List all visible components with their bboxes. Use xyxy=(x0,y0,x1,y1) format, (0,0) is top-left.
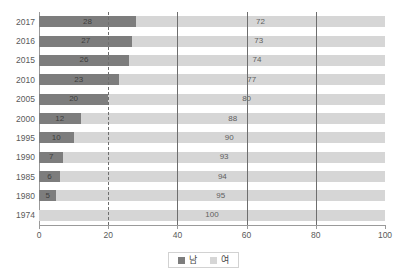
x-tick-label: 60 xyxy=(242,231,251,240)
y-tick-label: 2010 xyxy=(0,76,35,85)
bar-value-label: 72 xyxy=(136,18,385,26)
bar-value-label: 73 xyxy=(132,37,385,45)
bar-value-label: 5 xyxy=(39,192,56,200)
gridline-60 xyxy=(247,12,248,225)
bar-row: 595 xyxy=(39,190,385,201)
bar-segment-male: 28 xyxy=(39,16,136,27)
legend-label: 남 xyxy=(189,256,197,265)
bar-value-label: 93 xyxy=(63,153,385,161)
bar-value-label: 23 xyxy=(39,76,119,84)
x-tick xyxy=(177,225,178,229)
x-tick xyxy=(39,225,40,229)
gridline-20 xyxy=(108,12,109,225)
y-tick-label: 2015 xyxy=(0,56,35,65)
legend-item-female[interactable]: 여 xyxy=(210,256,229,265)
bar-row: 2377 xyxy=(39,74,385,85)
bar-segment-male: 10 xyxy=(39,132,74,143)
bar-segment-female: 93 xyxy=(63,152,385,163)
chart-legend: 남여 xyxy=(168,252,239,268)
y-tick-label: 2000 xyxy=(0,115,35,124)
y-tick-label: 1980 xyxy=(0,192,35,201)
bar-value-label: 12 xyxy=(39,115,81,123)
x-tick-label: 80 xyxy=(311,231,320,240)
bar-segment-male: 26 xyxy=(39,55,129,66)
bar-value-label: 26 xyxy=(39,56,129,64)
bar-segment-male: 27 xyxy=(39,36,132,47)
bar-row: 2773 xyxy=(39,36,385,47)
plot-rows: 2872277326742377208012881090793694595100 xyxy=(39,12,385,225)
bar-segment-male: 12 xyxy=(39,113,81,124)
bar-row: 793 xyxy=(39,152,385,163)
bar-value-label: 6 xyxy=(39,173,60,181)
bar-value-label: 28 xyxy=(39,18,136,26)
bar-value-label: 88 xyxy=(81,115,385,123)
x-tick xyxy=(247,225,248,229)
x-tick-label: 100 xyxy=(378,231,392,240)
bar-value-label: 10 xyxy=(39,134,74,142)
bar-value-label: 20 xyxy=(39,95,108,103)
bar-value-label: 77 xyxy=(119,76,385,84)
bar-segment-female: 72 xyxy=(136,16,385,27)
bar-value-label: 95 xyxy=(56,192,385,200)
legend-swatch-icon xyxy=(210,257,217,264)
x-tick xyxy=(385,225,386,229)
x-tick xyxy=(108,225,109,229)
stacked-bar-chart: 2017201620152010200520001995199019851980… xyxy=(0,0,404,280)
bar-segment-male: 5 xyxy=(39,190,56,201)
x-axis-line xyxy=(39,225,386,226)
bar-row: 1288 xyxy=(39,113,385,124)
y-tick-label: 1990 xyxy=(0,153,35,162)
bar-value-label: 90 xyxy=(74,134,385,142)
y-tick-label: 1995 xyxy=(0,134,35,143)
bar-value-label: 27 xyxy=(39,37,132,45)
y-tick-label: 2016 xyxy=(0,37,35,46)
bar-row: 1090 xyxy=(39,132,385,143)
legend-label: 여 xyxy=(221,256,229,265)
bar-segment-female: 74 xyxy=(129,55,385,66)
bar-row: 2080 xyxy=(39,94,385,105)
x-tick-label: 20 xyxy=(103,231,112,240)
bar-row: 694 xyxy=(39,171,385,182)
bar-segment-male: 6 xyxy=(39,171,60,182)
gridline-80 xyxy=(316,12,317,225)
x-tick-label: 40 xyxy=(173,231,182,240)
bar-segment-female: 73 xyxy=(132,36,385,47)
bar-segment-female: 100 xyxy=(39,210,385,221)
bar-row: 2872 xyxy=(39,16,385,27)
bar-segment-male: 7 xyxy=(39,152,63,163)
x-tick-label: 0 xyxy=(37,231,42,240)
y-axis-labels: 2017201620152010200520001995199019851980… xyxy=(0,12,35,225)
bar-segment-male: 23 xyxy=(39,74,119,85)
bar-value-label: 100 xyxy=(39,211,385,219)
bar-segment-male: 20 xyxy=(39,94,108,105)
legend-item-male[interactable]: 남 xyxy=(178,256,197,265)
y-tick-label: 1985 xyxy=(0,173,35,182)
bar-row: 2674 xyxy=(39,55,385,66)
y-tick-label: 2017 xyxy=(0,18,35,27)
y-tick-label: 2005 xyxy=(0,95,35,104)
bar-segment-female: 77 xyxy=(119,74,385,85)
gridline-40 xyxy=(177,12,178,225)
bar-row: 100 xyxy=(39,210,385,221)
bar-value-label: 74 xyxy=(129,56,385,64)
y-tick-label: 1974 xyxy=(0,211,35,220)
bar-value-label: 7 xyxy=(39,153,63,161)
legend-swatch-icon xyxy=(178,257,185,264)
bar-segment-female: 88 xyxy=(81,113,385,124)
bar-segment-female: 90 xyxy=(74,132,385,143)
x-tick xyxy=(316,225,317,229)
bar-segment-female: 95 xyxy=(56,190,385,201)
